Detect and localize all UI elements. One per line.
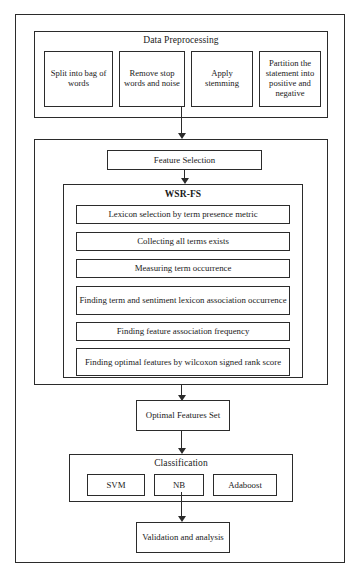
- preprocessing-step-remove-stop-words-and-noise[interactable]: Remove stop words and noise: [119, 51, 185, 107]
- wsr-fs-step-term-sentiment-association[interactable]: Finding term and sentiment lexicon assoc…: [76, 286, 290, 315]
- classifier-label: NB: [171, 480, 187, 490]
- classifier-label: SVM: [104, 480, 127, 490]
- classification-title: Classification: [70, 458, 292, 468]
- preprocessing-step-label: Apply stemming: [192, 69, 252, 89]
- data-preprocessing-title: Data Preprocessing: [35, 35, 327, 45]
- wsr-fs-step-label: Finding feature association frequency: [115, 326, 252, 336]
- wsr-fs-step-label: Collecting all terms exists: [135, 236, 231, 246]
- arrow-preprocessing-to-feature-selection: [177, 107, 186, 139]
- arrow-shaft: [181, 107, 182, 134]
- preprocessing-step-split-into-bag-of-words[interactable]: Split into bag of words: [44, 51, 113, 107]
- arrow-shaft: [181, 431, 182, 449]
- arrow-classification-to-validation: [177, 492, 186, 522]
- feature-selection-group: Feature Selection WSR-FS Lexicon selecti…: [34, 139, 328, 385]
- arrow-feature-selection-to-wsr-fs: [180, 170, 189, 184]
- validation-and-analysis-box[interactable]: Validation and analysis: [136, 522, 230, 553]
- classifier-label: Adaboost: [226, 480, 264, 490]
- wsr-fs-step-label: Measuring term occurrence: [133, 263, 234, 273]
- wsr-fs-step-feature-association-frequency[interactable]: Finding feature association frequency: [76, 322, 290, 341]
- data-preprocessing-group: Data Preprocessing Split into bag of wor…: [34, 31, 328, 118]
- wsr-fs-group: WSR-FS Lexicon selection by term presenc…: [63, 184, 303, 378]
- wsr-fs-step-collecting-all-terms[interactable]: Collecting all terms exists: [76, 232, 290, 251]
- arrow-feature-selection-to-optimal-features: [177, 385, 186, 401]
- wsr-fs-step-lexicon-selection[interactable]: Lexicon selection by term presence metri…: [76, 205, 290, 224]
- feature-selection-label: Feature Selection: [152, 155, 217, 165]
- arrow-shaft: [181, 492, 182, 517]
- preprocessing-step-apply-stemming[interactable]: Apply stemming: [191, 51, 253, 107]
- feature-selection-box[interactable]: Feature Selection: [107, 150, 262, 170]
- wsr-fs-step-label: Finding term and sentiment lexicon assoc…: [77, 295, 288, 305]
- preprocessing-step-label: Split into bag of words: [45, 69, 112, 89]
- flowchart-diagram: Data Preprocessing Split into bag of wor…: [15, 14, 345, 563]
- wsr-fs-step-label: Finding optimal features by wilcoxon sig…: [83, 357, 283, 367]
- wsr-fs-step-measuring-term-occurrence[interactable]: Measuring term occurrence: [76, 259, 290, 278]
- classifier-adaboost-box[interactable]: Adaboost: [213, 474, 277, 496]
- wsr-fs-step-label: Lexicon selection by term presence metri…: [106, 209, 259, 219]
- preprocessing-step-label: Partition the statement into positive an…: [260, 59, 320, 98]
- preprocessing-step-partition-statement[interactable]: Partition the statement into positive an…: [259, 51, 321, 107]
- wsr-fs-title: WSR-FS: [64, 189, 302, 199]
- arrow-optimal-features-to-classification: [177, 431, 186, 454]
- preprocessing-step-label: Remove stop words and noise: [120, 69, 184, 89]
- classifier-svm-box[interactable]: SVM: [87, 474, 145, 496]
- optimal-features-set-label: Optimal Features Set: [144, 410, 222, 420]
- wsr-fs-step-optimal-features-wilcoxon[interactable]: Finding optimal features by wilcoxon sig…: [76, 348, 290, 376]
- optimal-features-set-box[interactable]: Optimal Features Set: [136, 400, 230, 431]
- validation-and-analysis-label: Validation and analysis: [140, 532, 226, 542]
